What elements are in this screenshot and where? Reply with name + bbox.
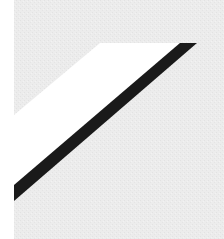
graphic-svg [0, 0, 224, 239]
abstract-graphic [0, 0, 224, 239]
